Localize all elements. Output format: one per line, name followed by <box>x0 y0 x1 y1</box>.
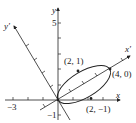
origin-point <box>57 99 59 101</box>
point-2-1 <box>77 70 80 73</box>
rotated-ellipse-diagram: y x x′ y′ 5 −3 −1 (2, 1) (4, 0) (2, −1) <box>0 0 136 123</box>
x-axis-label: x <box>115 90 120 100</box>
y-axis-label: y <box>51 5 56 15</box>
point-label-2-neg1: (2, −1) <box>86 104 111 114</box>
tick-label-y5: 5 <box>52 18 57 28</box>
y-prime-label: y′ <box>3 21 11 31</box>
diagram-canvas: y x x′ y′ 5 −3 −1 (2, 1) (4, 0) (2, −1) <box>0 0 136 123</box>
tick-label-xneg3: −3 <box>7 102 17 112</box>
point-label-2-1: (2, 1) <box>64 56 84 66</box>
tick-label-yneg1: −1 <box>47 110 57 120</box>
point-4-0 <box>109 68 112 71</box>
x-prime-label: x′ <box>124 44 132 54</box>
y-prime-ticks <box>26 44 53 87</box>
x-prime-axis <box>40 56 130 110</box>
point-label-4-0: (4, 0) <box>112 69 132 79</box>
point-2-neg1 <box>90 97 93 100</box>
